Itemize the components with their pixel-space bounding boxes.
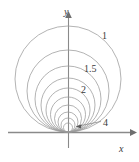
curve-label-1: 1 — [102, 31, 107, 41]
figure-container: y x 1 1.5 2 4 — [0, 0, 139, 162]
curve-label-2: 2 — [81, 85, 86, 95]
x-axis-label: x — [119, 144, 123, 154]
plot-svg — [0, 0, 139, 162]
y-axis-label: y — [64, 7, 68, 17]
curve-label-1-5: 1.5 — [84, 64, 97, 74]
curve-label-4: 4 — [103, 118, 108, 128]
x-axis-arrowhead — [130, 129, 137, 136]
